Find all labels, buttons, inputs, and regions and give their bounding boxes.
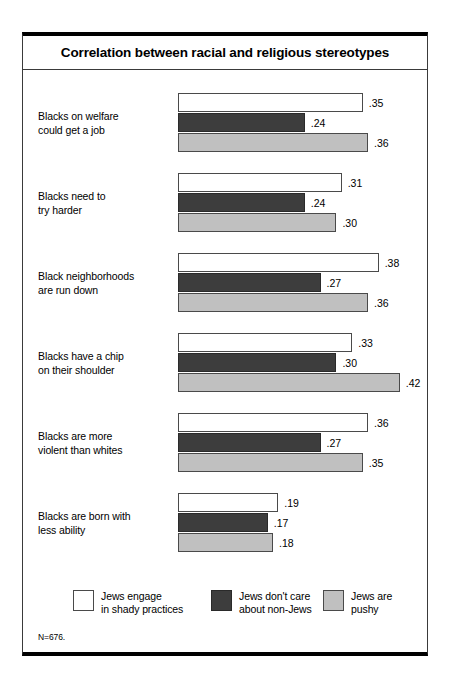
bar-group-label-line: could get a job	[38, 123, 183, 137]
bar-value-label: .30	[342, 357, 357, 369]
bar-value-label: .30	[342, 217, 357, 229]
bar-value-label: .24	[311, 197, 326, 209]
bar	[178, 293, 368, 312]
bar	[178, 413, 368, 432]
bar-group: Blacks are born withless ability.19.17.1…	[23, 492, 427, 554]
bar-value-label: .19	[284, 497, 299, 509]
bar	[178, 113, 305, 132]
bar-group-label-line: Blacks are born with	[38, 510, 183, 524]
bar-group-label-line: on their shoulder	[38, 363, 183, 377]
legend-swatch-icon	[73, 590, 94, 611]
bar-group: Blacks need totry harder.31.24.30	[23, 172, 427, 234]
bar-group-label: Blacks need totry harder	[38, 190, 183, 217]
bar-group-label-line: Black neighborhoods	[38, 270, 183, 284]
bar-group-label-line: less ability	[38, 523, 183, 537]
bar-group-label: Blacks on welfarecould get a job	[38, 110, 183, 137]
bar	[178, 373, 400, 392]
chart-figure: Correlation between racial and religious…	[22, 32, 428, 656]
legend-item[interactable]: Jews are pushy	[323, 590, 392, 615]
bar-value-label: .35	[369, 457, 384, 469]
bar-group: Blacks have a chipon their shoulder.33.3…	[23, 332, 427, 394]
legend-item[interactable]: Jews engage in shady practices	[73, 590, 183, 615]
bar-group-label: Black neighborhoodsare run down	[38, 270, 183, 297]
bar-value-label: .18	[279, 537, 294, 549]
bar-group-label: Blacks are born withless ability	[38, 510, 183, 537]
legend-item-label: Jews are pushy	[351, 590, 392, 615]
bar-group: Black neighborhoodsare run down.38.27.36	[23, 252, 427, 314]
bar-group-label: Blacks are moreviolent than whites	[38, 430, 183, 457]
bar-value-label: .36	[374, 297, 389, 309]
bar-value-label: .24	[311, 117, 326, 129]
bar-group-label-line: Blacks are more	[38, 430, 183, 444]
bar-group-label: Blacks have a chipon their shoulder	[38, 350, 183, 377]
bar-group-label-line: are run down	[38, 283, 183, 297]
bar	[178, 533, 273, 552]
chart-legend: Jews engage in shady practicesJews don't…	[23, 582, 427, 626]
bar	[178, 493, 278, 512]
bar-group-label-line: Blacks need to	[38, 190, 183, 204]
bar-group: Blacks on welfarecould get a job.35.24.3…	[23, 92, 427, 154]
bar	[178, 193, 305, 212]
bar	[178, 253, 379, 272]
bar-group: Blacks are moreviolent than whites.36.27…	[23, 412, 427, 474]
legend-item-label: Jews engage in shady practices	[101, 590, 183, 615]
bar-value-label: .31	[348, 177, 363, 189]
bar-value-label: .42	[406, 377, 421, 389]
legend-swatch-icon	[323, 590, 344, 611]
bar-value-label: .35	[369, 97, 384, 109]
legend-item-label: Jews don't care about non-Jews	[239, 590, 312, 615]
bar	[178, 213, 336, 232]
bar-value-label: .36	[374, 137, 389, 149]
legend-item[interactable]: Jews don't care about non-Jews	[211, 590, 312, 615]
bar	[178, 513, 268, 532]
bar	[178, 93, 363, 112]
bar-value-label: .38	[385, 257, 400, 269]
chart-footnote: N=676.	[38, 632, 65, 642]
bar	[178, 333, 352, 352]
chart-title-band: Correlation between racial and religious…	[23, 36, 427, 70]
bar-value-label: .33	[358, 337, 373, 349]
bar-group-label-line: Blacks have a chip	[38, 350, 183, 364]
plot-area: Blacks on welfarecould get a job.35.24.3…	[23, 70, 427, 582]
bar	[178, 453, 363, 472]
bar	[178, 433, 321, 452]
bar-group-label-line: Blacks on welfare	[38, 110, 183, 124]
bar	[178, 133, 368, 152]
bar-value-label: .36	[374, 417, 389, 429]
bar-value-label: .17	[274, 517, 289, 529]
bar	[178, 273, 321, 292]
legend-swatch-icon	[211, 590, 232, 611]
bar-value-label: .27	[327, 277, 342, 289]
bar-group-label-line: try harder	[38, 203, 183, 217]
bar-value-label: .27	[327, 437, 342, 449]
bar	[178, 173, 342, 192]
page-title: Correlation between racial and religious…	[61, 45, 389, 60]
bar	[178, 353, 336, 372]
bar-group-label-line: violent than whites	[38, 443, 183, 457]
